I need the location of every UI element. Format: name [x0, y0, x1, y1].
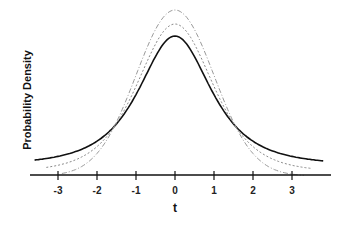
- x-tick-label: 3: [289, 185, 295, 196]
- x-tick-label: -1: [132, 185, 141, 196]
- chart: -3-2-10123 t Probability Density: [0, 0, 347, 227]
- y-axis-label: Probability Density: [21, 49, 33, 150]
- x-tick-label: -3: [54, 185, 63, 196]
- x-tick-label: 1: [211, 185, 217, 196]
- x-tick-label: -2: [93, 185, 102, 196]
- x-tick-label: 0: [172, 185, 178, 196]
- x-tick-label: 2: [250, 185, 256, 196]
- curve-solid-series: [35, 36, 324, 161]
- curve-dashdot-series: [62, 10, 304, 175]
- x-axis-label: t: [173, 201, 177, 215]
